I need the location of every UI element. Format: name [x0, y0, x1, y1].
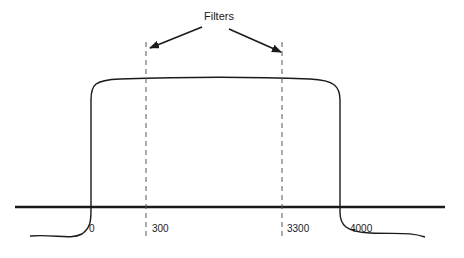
arrow-left	[150, 27, 202, 48]
tick-label-0: 0	[89, 223, 95, 234]
response-curve	[30, 78, 425, 238]
filter-diagram: Filters 0 300 3300 4000	[0, 0, 464, 258]
tick-label-300: 300	[152, 223, 169, 234]
tick-label-4000: 4000	[350, 223, 373, 234]
arrow-right	[229, 29, 281, 52]
tick-label-3300: 3300	[287, 223, 310, 234]
filters-label: Filters	[204, 10, 234, 22]
